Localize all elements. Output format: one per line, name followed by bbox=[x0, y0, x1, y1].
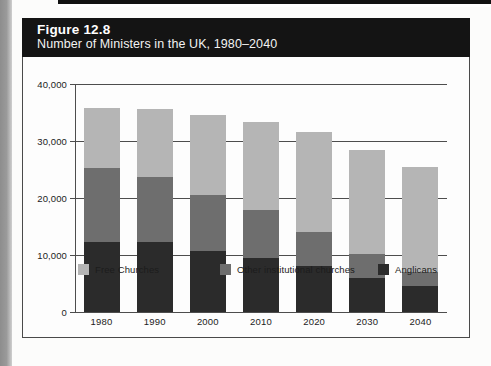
legend-swatch bbox=[378, 264, 389, 275]
bar-group-2020[interactable] bbox=[296, 132, 332, 312]
legend-swatch bbox=[78, 264, 89, 275]
legend-label: Other institutional churches bbox=[237, 264, 355, 275]
x-axis-label-2020: 2020 bbox=[303, 316, 325, 327]
x-axis-label-2030: 2030 bbox=[356, 316, 378, 327]
bar-group-2040[interactable] bbox=[402, 167, 438, 312]
bar-segment[interactable] bbox=[243, 122, 279, 210]
y-tick-30000 bbox=[70, 141, 75, 142]
bar-segment[interactable] bbox=[137, 177, 173, 242]
gridline-40000 bbox=[75, 84, 447, 85]
chart-frame: 010,00020,00030,00040,000 19801990200020… bbox=[22, 57, 470, 338]
figure-box: Figure 12.8 Number of Ministers in the U… bbox=[22, 18, 470, 338]
page-top-rule-highlight bbox=[58, 4, 491, 7]
gridline-0 bbox=[75, 312, 447, 313]
legend-label: Free Churches bbox=[95, 264, 159, 275]
figure-number: Figure 12.8 bbox=[37, 22, 110, 37]
bar-segment[interactable] bbox=[243, 210, 279, 258]
bar-segment[interactable] bbox=[349, 150, 385, 254]
x-axis-label-2040: 2040 bbox=[409, 316, 431, 327]
legend-item[interactable]: Anglicans bbox=[378, 264, 437, 275]
bar-segment[interactable] bbox=[349, 278, 385, 312]
y-axis-label-40000: 40,000 bbox=[37, 79, 67, 90]
y-tick-10000 bbox=[70, 255, 75, 256]
legend-label: Anglicans bbox=[395, 264, 437, 275]
bar-segment[interactable] bbox=[190, 115, 226, 195]
y-axis-label-10000: 10,000 bbox=[37, 250, 67, 261]
y-tick-0 bbox=[70, 312, 75, 313]
bar-segment[interactable] bbox=[402, 167, 438, 272]
y-axis-label-20000: 20,000 bbox=[37, 193, 67, 204]
bar-segment[interactable] bbox=[137, 109, 173, 177]
bar-segment[interactable] bbox=[84, 108, 120, 168]
bar-group-2000[interactable] bbox=[190, 115, 226, 312]
x-axis-label-2000: 2000 bbox=[197, 316, 219, 327]
bar-group-2030[interactable] bbox=[349, 150, 385, 312]
plot-area: 010,00020,00030,00040,000 19801990200020… bbox=[75, 84, 447, 312]
y-axis-label-0: 0 bbox=[62, 307, 67, 318]
bar-segment[interactable] bbox=[190, 195, 226, 251]
figure-subtitle: Number of Ministers in the UK, 1980–2040 bbox=[37, 37, 277, 51]
x-axis-label-2010: 2010 bbox=[250, 316, 272, 327]
bar-group-2010[interactable] bbox=[243, 122, 279, 312]
bar-segment[interactable] bbox=[190, 251, 226, 312]
bar-group-1980[interactable] bbox=[84, 108, 120, 312]
bar-segment[interactable] bbox=[84, 168, 120, 242]
bar-segment[interactable] bbox=[402, 286, 438, 312]
x-axis-label-1980: 1980 bbox=[91, 316, 113, 327]
figure-header: Figure 12.8 Number of Ministers in the U… bbox=[22, 18, 470, 57]
y-tick-40000 bbox=[70, 84, 75, 85]
legend-item[interactable]: Free Churches bbox=[78, 264, 159, 275]
legend-item[interactable]: Other institutional churches bbox=[220, 264, 355, 275]
bar-segment[interactable] bbox=[296, 132, 332, 232]
page-gutter-shadow bbox=[0, 0, 12, 366]
bar-segment[interactable] bbox=[296, 232, 332, 266]
y-axis-label-30000: 30,000 bbox=[37, 136, 67, 147]
bar-segment[interactable] bbox=[84, 242, 120, 312]
legend-swatch bbox=[220, 264, 231, 275]
bar-segment[interactable] bbox=[137, 242, 173, 312]
bar-group-1990[interactable] bbox=[137, 109, 173, 312]
x-axis-label-1990: 1990 bbox=[144, 316, 166, 327]
y-tick-20000 bbox=[70, 198, 75, 199]
